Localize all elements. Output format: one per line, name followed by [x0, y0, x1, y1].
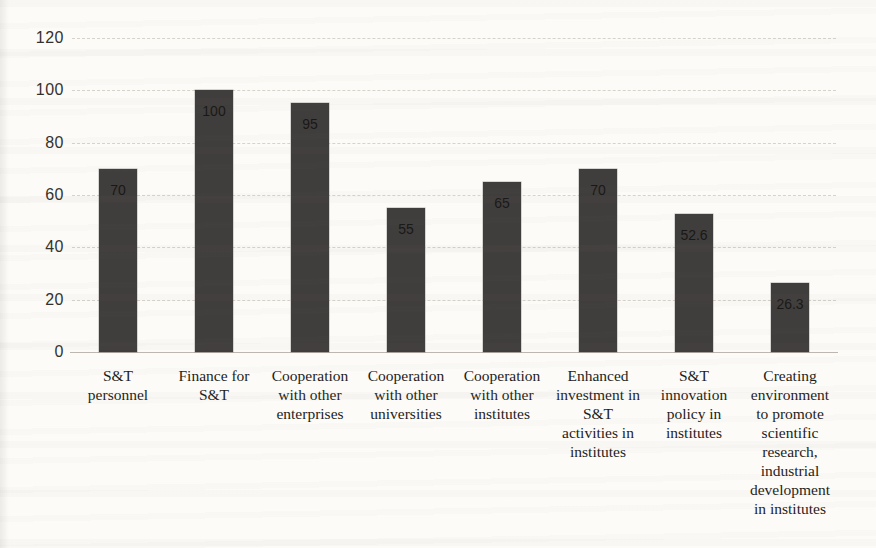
- gridline-60: [72, 195, 836, 196]
- y-tick-label-0: 0: [0, 343, 64, 361]
- bar-data-label-7: 52.6: [667, 228, 721, 242]
- bar-data-label-6: 70: [571, 183, 625, 197]
- plot-area: 701009555657052.626.3: [70, 38, 838, 352]
- y-tick-label-40: 40: [0, 238, 64, 256]
- bar-8: 26.3: [771, 283, 809, 352]
- gridline-100: [72, 90, 836, 91]
- bar-7: 52.6: [675, 214, 713, 352]
- bar-data-label-4: 55: [379, 222, 433, 236]
- y-tick-label-100: 100: [0, 81, 64, 99]
- bar-data-label-3: 95: [283, 117, 337, 131]
- x-label-4: Cooperation with other universities: [358, 366, 454, 423]
- bar-6: 70: [579, 169, 617, 352]
- bar-1: 70: [99, 169, 137, 352]
- gridline-80: [72, 143, 836, 144]
- y-tick-label-20: 20: [0, 291, 64, 309]
- x-label-3: Cooperation with other enterprises: [262, 366, 358, 423]
- bar-data-label-5: 65: [475, 196, 529, 210]
- bar-chart: 020406080100120 701009555657052.626.3 S&…: [0, 0, 876, 548]
- bar-3: 95: [291, 103, 329, 352]
- x-label-6: Enhanced investment in S&T activities in…: [550, 366, 646, 461]
- y-axis: 020406080100120: [0, 0, 64, 548]
- gridline-120: [72, 38, 836, 39]
- x-label-5: Cooperation with other institutes: [454, 366, 550, 423]
- bar-data-label-2: 100: [187, 104, 241, 118]
- y-tick-label-120: 120: [0, 29, 64, 47]
- bar-data-label-1: 70: [91, 183, 145, 197]
- bar-2: 100: [195, 90, 233, 352]
- x-label-1: S&T personnel: [70, 366, 166, 404]
- gridline-20: [72, 300, 836, 301]
- x-label-7: S&T innovation policy in institutes: [646, 366, 742, 442]
- y-tick-label-80: 80: [0, 134, 64, 152]
- bar-data-label-8: 26.3: [763, 297, 817, 311]
- x-axis-line: [70, 352, 838, 353]
- x-label-8: Creating environment to promote scientif…: [742, 366, 838, 518]
- bar-4: 55: [387, 208, 425, 352]
- x-label-2: Finance for S&T: [166, 366, 262, 404]
- gridline-40: [72, 247, 836, 248]
- bar-5: 65: [483, 182, 521, 352]
- y-tick-label-60: 60: [0, 186, 64, 204]
